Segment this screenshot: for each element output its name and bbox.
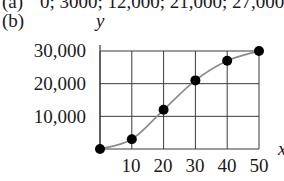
data-point-40 [222,56,232,66]
data-point-50 [254,46,264,56]
line-chart [0,0,284,181]
x-axis-label: x [278,138,284,160]
x-tick-30: 30 [180,156,210,175]
data-point-30 [190,75,200,85]
data-curve [100,51,259,149]
data-point-0 [95,144,105,154]
x-tick-40: 40 [212,156,242,175]
x-tick-50: 50 [244,156,274,175]
data-point-20 [159,105,169,115]
x-tick-10: 10 [116,156,146,175]
chart-grid [100,45,259,149]
data-point-10 [127,134,137,144]
x-tick-20: 20 [148,156,178,175]
data-points [95,46,264,154]
